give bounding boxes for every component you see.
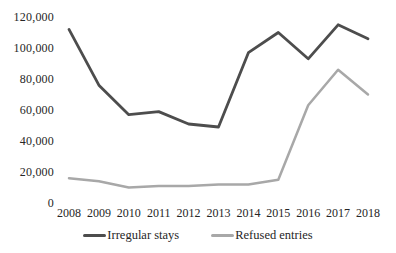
legend-line-icon: [211, 234, 234, 237]
x-tick-label: 2016: [292, 206, 324, 220]
y-tick-label: 20,000: [0, 165, 54, 179]
legend-item-irregular-stays: Irregular stays: [83, 228, 179, 243]
legend: Irregular staysRefused entries: [0, 228, 396, 243]
x-tick-label: 2012: [173, 206, 205, 220]
x-tick-label: 2015: [262, 206, 294, 220]
legend-label: Refused entries: [235, 228, 312, 243]
y-tick-label: 60,000: [0, 103, 54, 117]
y-tick-label: 80,000: [0, 72, 54, 86]
line-chart: 020,00040,00060,00080,000100,000120,000 …: [0, 0, 396, 253]
legend-line-icon: [83, 234, 106, 237]
series-line-refused-entries: [69, 70, 368, 188]
x-tick-label: 2011: [143, 206, 175, 220]
x-tick-label: 2017: [322, 206, 354, 220]
x-tick-label: 2018: [352, 206, 384, 220]
x-tick-label: 2013: [203, 206, 235, 220]
x-tick-label: 2014: [232, 206, 264, 220]
legend-label: Irregular stays: [107, 228, 179, 243]
y-tick-label: 0: [0, 196, 54, 210]
x-tick-label: 2010: [113, 206, 145, 220]
series-line-irregular-stays: [69, 25, 368, 127]
legend-item-refused-entries: Refused entries: [211, 228, 312, 243]
y-tick-label: 100,000: [0, 41, 54, 55]
x-tick-label: 2009: [83, 206, 115, 220]
x-tick-label: 2008: [53, 206, 85, 220]
y-tick-label: 120,000: [0, 10, 54, 24]
y-tick-label: 40,000: [0, 134, 54, 148]
